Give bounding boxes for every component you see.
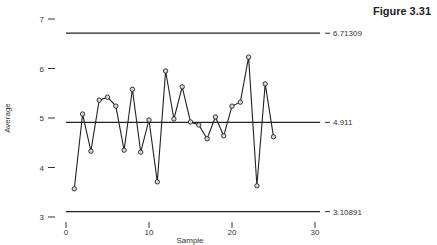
data-point	[205, 137, 209, 141]
data-point	[172, 117, 176, 121]
x-tick-label: 10	[145, 228, 154, 237]
x-axis: 0102030	[64, 222, 320, 237]
data-point	[163, 69, 167, 73]
data-point	[89, 149, 93, 153]
data-point	[130, 87, 134, 91]
control-chart: 34567 0102030 6.713094.9113.10891 Sample…	[0, 0, 437, 245]
x-tick-label: 20	[228, 228, 237, 237]
data-point	[246, 55, 250, 59]
y-tick-label: 7	[40, 15, 45, 24]
data-point	[263, 82, 267, 86]
reference-label-lcl: 3.10891	[333, 208, 362, 217]
data-point	[197, 123, 201, 127]
y-tick-label: 4	[40, 164, 45, 173]
y-axis-title: Average	[3, 103, 12, 133]
y-tick-label: 5	[40, 114, 45, 123]
data-point	[180, 85, 184, 89]
x-tick-label: 30	[311, 228, 320, 237]
reference-lines: 6.713094.9113.10891	[66, 29, 362, 216]
data-point	[80, 112, 84, 116]
data-point	[97, 98, 101, 102]
data-point	[155, 180, 159, 184]
data-point	[188, 120, 192, 124]
data-point	[122, 148, 126, 152]
x-axis-title: Sample	[176, 236, 204, 245]
y-axis: 34567	[40, 15, 55, 222]
data-point	[230, 104, 234, 108]
data-point	[72, 187, 76, 191]
data-point	[255, 184, 259, 188]
reference-label-ucl: 6.71309	[333, 29, 362, 38]
x-tick-label: 0	[64, 228, 69, 237]
data-point	[271, 135, 275, 139]
data-point	[213, 115, 217, 119]
y-tick-label: 3	[40, 213, 45, 222]
y-tick-label: 6	[40, 65, 45, 74]
data-point	[222, 134, 226, 138]
reference-label-cl: 4.911	[333, 118, 353, 127]
data-point	[238, 100, 242, 104]
data-point	[139, 150, 143, 154]
data-point	[114, 104, 118, 108]
data-point	[105, 95, 109, 99]
data-point	[147, 118, 151, 122]
